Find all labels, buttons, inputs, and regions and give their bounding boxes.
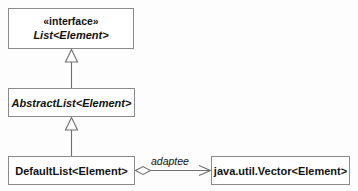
aggregation-defaultlist-to-vector: [136, 166, 211, 176]
uml-class-diagram: «interface» List<Element> AbstractList<E…: [0, 0, 358, 191]
class-name-list: List<Element>: [33, 28, 108, 42]
class-box-list[interactable]: «interface» List<Element>: [8, 8, 134, 49]
association-label-adaptee: adaptee: [151, 155, 189, 167]
generalization-abstractlist-to-list: [66, 50, 78, 89]
class-name-vector: java.util.Vector<Element>: [214, 164, 347, 178]
class-box-defaultlist[interactable]: DefaultList<Element>: [8, 156, 135, 185]
class-box-vector[interactable]: java.util.Vector<Element>: [211, 156, 350, 185]
class-name-abstractlist: AbstractList<Element>: [12, 96, 132, 110]
class-name-defaultlist: DefaultList<Element>: [15, 164, 127, 178]
class-stereotype-list: «interface»: [43, 15, 98, 28]
class-box-abstractlist[interactable]: AbstractList<Element>: [8, 88, 135, 117]
generalization-defaultlist-to-abstractlist: [66, 118, 78, 157]
